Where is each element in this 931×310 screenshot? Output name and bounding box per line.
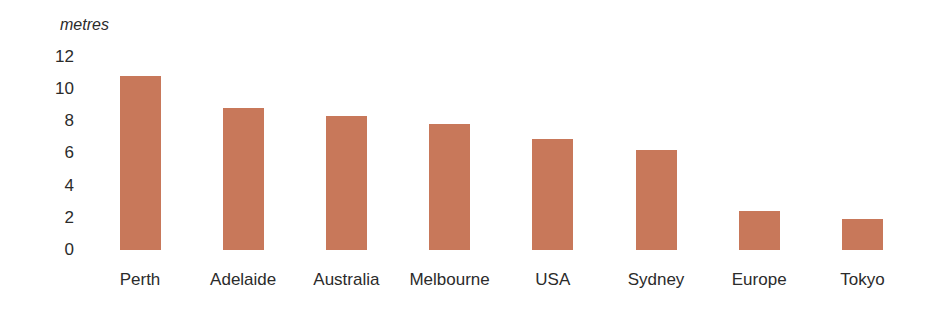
bar-sydney xyxy=(636,150,677,250)
x-tick-label: Melbourne xyxy=(395,270,505,290)
y-tick-label: 6 xyxy=(44,143,74,163)
y-tick-label: 4 xyxy=(44,176,74,196)
x-tick-label: Australia xyxy=(291,270,401,290)
x-tick-label: USA xyxy=(498,270,608,290)
bar-tokyo xyxy=(842,219,883,250)
bar-australia xyxy=(326,116,367,250)
bar-perth xyxy=(120,76,161,250)
y-tick-label: 0 xyxy=(44,240,74,260)
y-tick-label: 8 xyxy=(44,111,74,131)
bar-usa xyxy=(532,139,573,250)
y-tick-label: 2 xyxy=(44,208,74,228)
bar-adelaide xyxy=(223,108,264,250)
bar-chart: metres 024681012 PerthAdelaideAustraliaM… xyxy=(0,0,931,310)
bar-melbourne xyxy=(429,124,470,250)
x-tick-label: Europe xyxy=(704,270,814,290)
y-tick-label: 10 xyxy=(44,79,74,99)
x-tick-label: Perth xyxy=(85,270,195,290)
y-tick-label: 12 xyxy=(44,47,74,67)
x-tick-label: Sydney xyxy=(601,270,711,290)
x-tick-label: Adelaide xyxy=(188,270,298,290)
x-tick-label: Tokyo xyxy=(807,270,917,290)
bar-europe xyxy=(739,211,780,250)
y-axis-label: metres xyxy=(60,16,109,34)
